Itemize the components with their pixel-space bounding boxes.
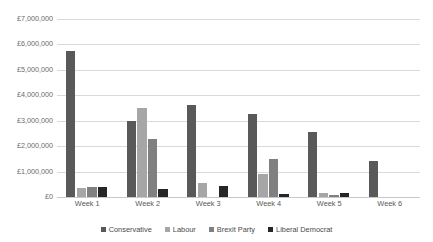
y-tick-label: £3,000,000 [0, 117, 53, 124]
bar [319, 193, 328, 197]
bar [219, 186, 228, 197]
y-tick-label: £1,000,000 [0, 168, 53, 175]
x-tick-label: Week 6 [377, 200, 402, 207]
bar [148, 139, 157, 197]
gridline [57, 197, 420, 198]
bar [248, 114, 257, 197]
bar [329, 195, 338, 197]
x-tick-label: Week 3 [196, 200, 221, 207]
y-tick-label: £2,000,000 [0, 143, 53, 150]
legend-label: Liberal Democrat [276, 226, 332, 233]
bar [98, 187, 107, 197]
bar [279, 194, 288, 197]
x-tick-label: Week 5 [317, 200, 342, 207]
y-tick-label: £5,000,000 [0, 66, 53, 73]
legend-label: Brexit Party [217, 226, 255, 233]
x-tick-label: Week 1 [75, 200, 100, 207]
legend-swatch-icon [101, 227, 106, 232]
legend-swatch-icon [165, 227, 170, 232]
legend-item[interactable]: Liberal Democrat [268, 226, 332, 233]
bar [158, 189, 167, 197]
bar [308, 132, 317, 197]
y-axis: £0£1,000,000£2,000,000£3,000,000£4,000,0… [0, 0, 53, 242]
bar [66, 51, 75, 197]
legend-label: Conservative [109, 226, 152, 233]
y-tick-label: £6,000,000 [0, 41, 53, 48]
legend-swatch-icon [209, 227, 214, 232]
bar [269, 159, 278, 197]
legend-label: Labour [173, 226, 196, 233]
bar [87, 187, 96, 197]
bar [127, 121, 136, 197]
bar [198, 183, 207, 197]
y-tick-label: £7,000,000 [0, 15, 53, 22]
bar-chart: £0£1,000,000£2,000,000£3,000,000£4,000,0… [0, 0, 433, 242]
x-tick-label: Week 2 [135, 200, 160, 207]
legend-item[interactable]: Labour [165, 226, 196, 233]
y-tick-label: £0 [0, 193, 53, 200]
x-tick-label: Week 4 [256, 200, 281, 207]
bar [187, 105, 196, 197]
legend-swatch-icon [268, 227, 273, 232]
bars-layer [57, 19, 420, 197]
chart-legend: ConservativeLabourBrexit PartyLiberal De… [0, 226, 433, 233]
legend-item[interactable]: Brexit Party [209, 226, 255, 233]
bar [369, 161, 378, 197]
y-tick-label: £4,000,000 [0, 92, 53, 99]
legend-item[interactable]: Conservative [101, 226, 152, 233]
x-axis: Week 1Week 2Week 3Week 4Week 5Week 6 [57, 200, 420, 216]
bar [137, 108, 146, 197]
bar [258, 174, 267, 197]
bar [340, 193, 349, 197]
plot-area [57, 19, 420, 197]
bar [77, 188, 86, 197]
